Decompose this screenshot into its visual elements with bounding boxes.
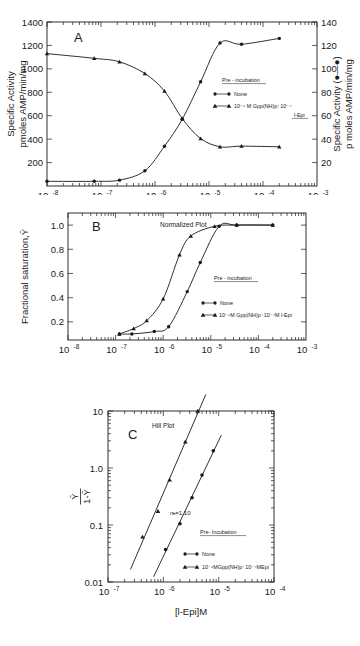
panel-a-curve-1 — [47, 38, 279, 181]
y-axis-title-line2: pmoles AMP/min/mg — [17, 60, 28, 147]
svg-text:10: 10 — [106, 344, 117, 355]
svg-text:-4: -4 — [280, 585, 286, 592]
panel-a-circle-point — [199, 80, 202, 83]
legend-marker-circle — [213, 301, 216, 304]
panel-b-x-tick-label: 10-8 — [59, 343, 80, 356]
y-axis-numerator: Ȳ — [69, 493, 80, 500]
panel-a-circle-point — [163, 144, 166, 147]
panel-c-triangle-point — [183, 439, 188, 443]
svg-text:10: 10 — [297, 344, 308, 355]
panel-a-y-tick-label-right: 20 — [321, 157, 332, 168]
panel-c-legend: Pre- IncubationNone10⁻⁶MGpp(NH)p⁺10⁻⁴MEp… — [183, 529, 269, 570]
panel-b-legend-label-1: None — [220, 300, 233, 306]
panel-b-x-tick-label: 10-7 — [106, 343, 127, 356]
y-axis-title-line1: Specific Activity — [5, 71, 16, 137]
panel-a-y-tick-label: 200 — [27, 157, 43, 168]
panel-c-y-tick-label: 10 — [92, 406, 103, 417]
panel-a-circle-point — [118, 178, 121, 181]
panel-a-circle-point — [278, 37, 281, 40]
svg-text:-7: -7 — [121, 343, 127, 350]
panel-c-x-axis-title: [l-Epi]M — [175, 606, 207, 617]
panel-c-y-tick-label: 1.0 — [90, 463, 103, 474]
panel-a-letter: A — [74, 30, 83, 45]
panel-c-legend-label-1: None — [202, 551, 215, 557]
svg-text:10: 10 — [202, 344, 213, 355]
panel-a-y-tick-label-right: 60 — [321, 110, 332, 121]
panel-b-x-tick-label: 10-6 — [154, 343, 175, 356]
panel-b-circle-point — [130, 332, 133, 335]
panel-c-y-axis-title: Ȳ1-Ȳ — [69, 488, 92, 504]
panel-c-fit-line-2 — [130, 394, 205, 569]
panel-c-x-tick-label: 10-5 — [209, 585, 230, 598]
panel-a-y-tick-label: 1200 — [22, 40, 43, 51]
panel-b-y-tick-label: 0.6 — [51, 268, 64, 279]
legend-marker-circle — [195, 552, 198, 555]
panel-c-x-tick-label: 10-4 — [265, 585, 286, 598]
panel-b-y-tick-label: 0.2 — [51, 316, 64, 327]
panel-b-letter: B — [92, 219, 101, 234]
panel-b-triangle-point — [161, 297, 165, 301]
panel-a-circle-point — [93, 180, 96, 183]
panel-b-circle-point — [186, 290, 189, 293]
panel-a-circle-point — [45, 180, 48, 183]
panel-a-y-tick-label-right: 40 — [321, 134, 332, 145]
panel-b-y-axis-title: Fractional saturation,Ȳ — [19, 228, 30, 324]
panel-a-circle-point — [143, 169, 146, 172]
panel-c-circle-point — [178, 522, 182, 526]
panel-a-triangle-point — [143, 71, 147, 75]
panel-b-circle-point — [199, 261, 202, 264]
panel-a-legend-label-2: 10⁻⁶ M Gpp(NH)p⁺10⁻⁴ — [234, 103, 292, 109]
panel-c-circle-point — [212, 449, 216, 453]
svg-text:-5: -5 — [224, 585, 230, 592]
svg-text:-5: -5 — [216, 343, 222, 350]
panel-b-y-tick-label: 1.0 — [51, 220, 64, 231]
svg-text:10: 10 — [265, 586, 276, 597]
panel-b-legend-header: Pre - incubation — [214, 275, 252, 281]
panel-b-y-tick-label: 0.8 — [51, 244, 64, 255]
panel-a-y-tick-label-right: 120 — [321, 40, 337, 51]
svg-text:-4: -4 — [264, 343, 270, 350]
svg-text:-6: -6 — [169, 343, 175, 350]
panel-c-letter: C — [128, 427, 137, 442]
figure-container: 10-810-710-610-510-410-32004006008001000… — [0, 0, 360, 646]
panel-a-legend: Pre - incubationNone10⁻⁶ M Gpp(NH)p⁺10⁻⁴… — [213, 77, 308, 118]
legend-marker-circle — [201, 301, 204, 304]
panel-b-legend: Pre - incubationNone10⁻⁶M Gpp(NH)p⁺10⁻⁴M… — [201, 275, 292, 318]
panel-b-triangle-point — [177, 253, 181, 257]
panel-b-x-tick-label: 10-5 — [202, 343, 223, 356]
panel-c-legend-header: Pre- Incubation — [200, 529, 237, 535]
panel-a-y-tick-label: 800 — [27, 87, 43, 98]
panel-c-subtitle: Hill Plot — [152, 422, 175, 429]
panel-a-circle-point — [240, 43, 243, 46]
panel-c-circle-point — [164, 548, 168, 552]
panel-a-y-axis-title-right: Specific Activity (●—●)p moles AMP/min/m… — [331, 56, 354, 151]
panel-c-hill-coefficient-annotation: nₕ=1.10 — [170, 510, 191, 516]
svg-text:10: 10 — [249, 344, 260, 355]
svg-text:10: 10 — [59, 344, 70, 355]
panel-c-y-tick-label: 0.01 — [85, 577, 104, 588]
panel-a-y-tick-label: 400 — [27, 134, 43, 145]
panel-a-legend-label-1: None — [234, 91, 247, 97]
panel-b-x-tick-label: 10-4 — [249, 343, 270, 356]
svg-text:-3: -3 — [312, 343, 318, 350]
panel-a-circle-point — [218, 41, 221, 44]
panel-b-frame — [68, 213, 306, 340]
panel-a-y-axis-title: Specific Activitypmoles AMP/min/mg — [5, 60, 28, 147]
svg-text:10: 10 — [154, 344, 165, 355]
panel-b-triangle-point — [131, 326, 135, 330]
panel-a-chart: 10-810-710-610-510-410-32004006008001000… — [0, 0, 360, 195]
panel-a-y-tick-label-right: 140 — [321, 17, 337, 28]
panel-c-chart: 10-710-610-510-40.010.11.010CHill Plotnₕ… — [0, 392, 360, 642]
y-axis-title-right-line1: Specific Activity (●—●) — [331, 56, 342, 151]
panel-a-legend-header: Pre - incubation — [222, 77, 260, 83]
y-axis-title-right-line2: p moles AMP/min/mg — [343, 59, 354, 149]
panel-a-y-tick-label-right: 80 — [321, 87, 332, 98]
y-axis-denominator: 1-Ȳ — [81, 488, 92, 503]
panel-b-circle-point — [153, 330, 156, 333]
panel-b-legend-label-2: 10⁻⁶M Gpp(NH)p⁺10⁻⁴M l-Epi — [219, 312, 292, 318]
svg-text:10: 10 — [154, 586, 165, 597]
panel-b-y-tick-label: 0.4 — [51, 292, 64, 303]
panel-c-legend-label-2: 10⁻⁶MGpp(NH)p⁺10⁻⁴MEpi — [202, 564, 269, 570]
panel-c-circle-point — [190, 496, 194, 500]
svg-text:-6: -6 — [169, 585, 175, 592]
